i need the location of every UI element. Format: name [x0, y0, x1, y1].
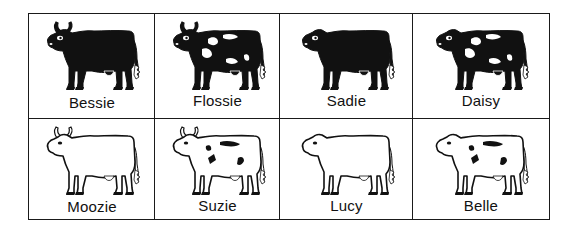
cow-cell-3: Daisy — [413, 14, 549, 118]
cow-cell-6: Lucy — [280, 119, 413, 219]
cow-cell-2: Sadie — [280, 14, 413, 118]
cow-icon — [42, 17, 142, 95]
cow-icon — [297, 17, 397, 95]
cow-cell-1: Flossie — [155, 14, 280, 118]
cow-name: Flossie — [155, 92, 280, 109]
cow-icon — [431, 17, 531, 95]
cow-icon — [168, 17, 268, 95]
cow-name: Belle — [413, 197, 549, 214]
cow-cell-7: Belle — [413, 119, 549, 219]
cow-icon — [431, 122, 531, 200]
cow-icon — [168, 122, 268, 200]
cow-name: Daisy — [413, 92, 549, 109]
cow-icon — [297, 122, 397, 200]
cow-name: Moozie — [29, 198, 155, 215]
cow-name: Suzie — [155, 197, 280, 214]
cow-grid: Bessie Flossie Sadie Daisy Moozie Suzie … — [28, 13, 550, 220]
cow-name: Bessie — [29, 94, 155, 111]
cow-cell-5: Suzie — [155, 119, 280, 219]
cow-cell-0: Bessie — [29, 14, 155, 118]
cow-name: Lucy — [280, 197, 413, 214]
cow-name: Sadie — [280, 92, 413, 109]
cow-cell-4: Moozie — [29, 119, 155, 219]
cow-icon — [42, 122, 142, 200]
